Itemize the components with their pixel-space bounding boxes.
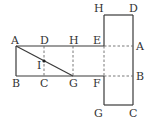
label-right-B: B bbox=[136, 70, 144, 83]
cuboid-net-diagram: A D H E A I B C G F B H D G C bbox=[0, 0, 154, 127]
label-point-I: I bbox=[37, 59, 41, 72]
label-tall-bottom-G: G bbox=[94, 107, 103, 120]
label-tall-top-H: H bbox=[94, 2, 104, 15]
label-bottom-G: G bbox=[69, 77, 78, 90]
label-tall-top-D: D bbox=[129, 2, 138, 15]
label-top-A: A bbox=[10, 34, 20, 47]
label-bottom-B: B bbox=[12, 77, 20, 90]
label-tall-bottom-C: C bbox=[129, 107, 137, 120]
label-bottom-F: F bbox=[93, 77, 101, 90]
label-bottom-C: C bbox=[40, 77, 48, 90]
label-right-A: A bbox=[135, 40, 145, 53]
dashed-edges bbox=[44, 46, 133, 76]
label-top-H: H bbox=[69, 34, 79, 47]
diagram-svg: A D H E A I B C G F B H D G C bbox=[0, 0, 154, 127]
solid-edges bbox=[16, 15, 133, 105]
label-top-D: D bbox=[40, 34, 49, 47]
point-I-dot bbox=[42, 59, 45, 62]
label-top-E: E bbox=[93, 34, 101, 47]
